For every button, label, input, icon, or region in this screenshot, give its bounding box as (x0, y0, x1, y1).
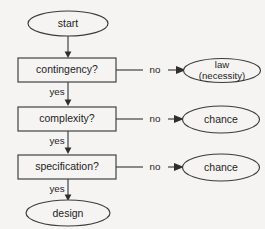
node-start-label: start (58, 17, 79, 29)
node-chance-1[interactable]: chance (183, 106, 260, 133)
node-chance-1-label: chance (204, 113, 238, 125)
node-specification-label: specification? (35, 160, 99, 172)
edge-label-specification-yes: yes (49, 183, 64, 194)
node-contingency[interactable]: contingency? (18, 58, 116, 82)
node-start[interactable]: start (28, 11, 108, 36)
edge-start-to-contingency (65, 36, 72, 58)
node-chance-2[interactable]: chance (183, 154, 260, 181)
edge-label-complexity-no: no (150, 113, 161, 124)
edge-label-contingency-no: no (150, 64, 161, 75)
node-specification[interactable]: specification? (18, 155, 116, 179)
node-complexity[interactable]: complexity? (18, 107, 116, 131)
edge-complexity-yes (65, 131, 72, 154)
node-design-label: design (53, 207, 84, 219)
edge-label-contingency-yes: yes (49, 86, 64, 97)
node-law-label-line2: (necessity) (199, 70, 245, 81)
edge-label-specification-no: no (150, 161, 161, 172)
edge-specification-yes (65, 179, 72, 201)
node-law-label-line1: law (215, 59, 229, 70)
flowchart-canvas: start contingency? law (necessity) compl… (0, 0, 265, 229)
flowchart-svg: start contingency? law (necessity) compl… (0, 0, 265, 229)
node-design[interactable]: design (26, 200, 110, 226)
node-chance-2-label: chance (204, 161, 238, 173)
node-contingency-label: contingency? (36, 63, 98, 75)
node-complexity-label: complexity? (39, 112, 95, 124)
node-law[interactable]: law (necessity) (184, 59, 261, 83)
edge-label-complexity-yes: yes (49, 135, 64, 146)
edge-contingency-yes (65, 82, 72, 106)
